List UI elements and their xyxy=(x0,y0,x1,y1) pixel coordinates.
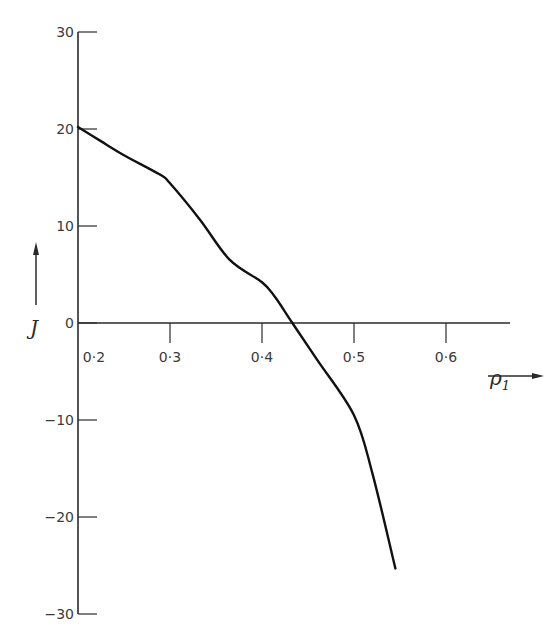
y-tick-label: −10 xyxy=(44,412,74,428)
x-tick-label: 0·5 xyxy=(343,349,365,365)
plot-area xyxy=(78,127,395,568)
x-axis-subscript: 1 xyxy=(502,378,510,393)
data-curve xyxy=(78,127,395,568)
y-tick-label: −20 xyxy=(44,509,74,525)
x-tick-label: 0·3 xyxy=(159,349,181,365)
y-tick-label: 0 xyxy=(65,315,74,331)
axis-labels: J ρ1 xyxy=(26,242,544,393)
x-tick-label: 0·4 xyxy=(251,349,273,365)
y-axis-label: J xyxy=(26,316,39,340)
up-arrow-icon xyxy=(33,242,39,305)
x-axis-label: ρ1 xyxy=(489,366,510,393)
chart: 3020100−10−20−30 0·20·30·40·50·6 J ρ1 xyxy=(0,0,558,637)
y-tick-label: 30 xyxy=(56,24,74,40)
x-tick-label: 0·6 xyxy=(435,349,457,365)
x-tick-label: 0·2 xyxy=(83,349,105,365)
y-tick-label: 10 xyxy=(56,218,74,234)
y-tick-label: 20 xyxy=(56,121,74,137)
x-axis-symbol: ρ xyxy=(489,366,502,390)
y-tick-label: −30 xyxy=(44,606,74,622)
x-axis: 0·20·30·40·50·6 xyxy=(78,323,510,365)
